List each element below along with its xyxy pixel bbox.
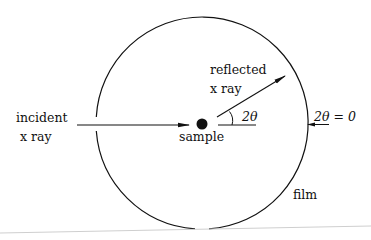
page-edge-line — [0, 226, 371, 233]
incident-label-line2: x ray — [20, 129, 52, 144]
film-label: film — [293, 187, 317, 202]
incident-label-line1: incident — [16, 110, 68, 125]
angle-arc — [230, 112, 233, 126]
diffraction-diagram: incident x ray reflected x ray sample 2θ… — [0, 0, 371, 240]
zero-angle-label: 2θ = 0 — [313, 109, 356, 124]
sample-dot — [197, 119, 208, 130]
angle-label: 2θ — [241, 109, 258, 124]
reflected-label-line1: reflected — [210, 62, 267, 77]
sample-label: sample — [179, 129, 224, 144]
reflected-label-line2: x ray — [210, 81, 242, 96]
